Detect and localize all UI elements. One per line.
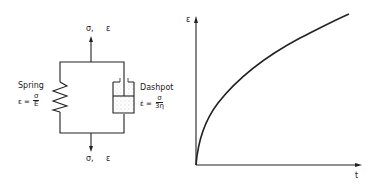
spring-equation-fraction: σ E: [33, 93, 39, 108]
chart-axes: [194, 16, 362, 167]
top-stress-label: σ,: [86, 25, 94, 33]
spring-label: Spring: [18, 82, 44, 90]
dashpot-equation-lhs: ε̇ =: [140, 101, 152, 108]
dashpot-icon: [113, 78, 134, 113]
bottom-stress-label: σ,: [86, 155, 94, 163]
spring-eq-denominator: E: [34, 101, 38, 108]
spring-icon: [53, 82, 67, 112]
top-strain-label: ε: [106, 25, 110, 33]
dashpot-label: Dashpot: [140, 84, 173, 92]
spring-equation-lhs: ε =: [18, 99, 30, 106]
top-force-arrow: [89, 36, 93, 62]
diagram-canvas: [0, 0, 376, 185]
bottom-strain-label: ε: [106, 155, 110, 163]
dashpot-equation-fraction: σ 3η: [155, 95, 164, 110]
creep-curve: [196, 14, 349, 165]
y-axis-label: ε: [186, 16, 190, 24]
x-axis-label: t: [355, 172, 358, 180]
dashpot-eq-denominator: 3η: [155, 103, 164, 110]
bottom-force-arrow: [89, 133, 93, 152]
